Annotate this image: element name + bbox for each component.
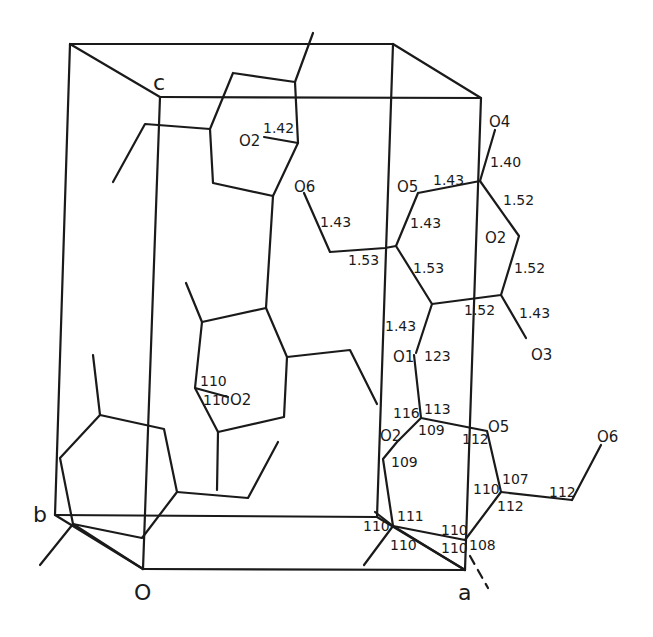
atom-label: O5	[488, 418, 509, 436]
axis-label-origin: O	[134, 580, 151, 605]
bond-angle: 116	[393, 405, 420, 421]
atom-label: O1	[393, 348, 414, 366]
link-down	[266, 196, 273, 308]
bond-angle: 110	[363, 518, 390, 534]
C1-O1-bond	[416, 304, 432, 353]
atom-label: O6	[597, 428, 618, 446]
atom-label: O2	[380, 427, 401, 445]
bond-length: 1.53	[413, 260, 444, 276]
atom-label: O2	[485, 229, 506, 247]
bond-angle: 112	[462, 431, 489, 447]
atom-label: O5	[397, 178, 418, 196]
ring-bonds	[195, 308, 287, 432]
axis-label-b: b	[33, 502, 47, 527]
bond-length: 1.43	[519, 305, 550, 321]
bond-angle: 112	[497, 498, 524, 514]
bond-length: 1.53	[348, 252, 379, 268]
methyl-bond	[186, 283, 202, 322]
cell-edge-top-right-diagonal	[393, 44, 481, 98]
lower-left-ring	[40, 355, 278, 569]
bond-angle: 109	[418, 422, 445, 438]
C6-O6-bond	[572, 445, 601, 500]
side-chain-left	[113, 124, 210, 182]
methyl-bond	[93, 355, 100, 415]
bond-length: 1.40	[490, 154, 521, 170]
bond-length: 1.43	[320, 214, 351, 230]
bond-angle: 109	[391, 454, 418, 470]
bond-angle: 107	[502, 471, 529, 487]
bond-length: 1.43	[433, 172, 464, 188]
bond-angle: 110	[441, 522, 468, 538]
side-chain-right	[177, 442, 278, 498]
bond-down-left	[40, 524, 73, 565]
cell-edge-front-bottom	[143, 569, 465, 570]
cell-edge-back-right	[377, 44, 393, 517]
cell-edge-back-bottom	[55, 515, 377, 517]
atom-label: O2	[230, 391, 251, 409]
bond-angle: 110	[441, 540, 468, 556]
bond-length: 1.52	[464, 302, 495, 318]
bond-length: 1.52	[503, 192, 534, 208]
atom-label: O3	[531, 346, 552, 364]
cell-edge-front-top	[160, 97, 481, 98]
bond-angle: 110	[390, 537, 417, 553]
axis-label-a: a	[458, 580, 471, 605]
axis-label-c: c	[153, 70, 165, 95]
atom-label: O2	[239, 132, 260, 150]
atom-label: O6	[294, 178, 315, 196]
link-down	[217, 432, 218, 490]
upper-left-ring	[113, 33, 313, 308]
bond-length: 1.42	[263, 120, 294, 136]
O2-bond	[264, 137, 298, 143]
methyl-bond-up	[295, 33, 313, 82]
cell-edge-back-left	[55, 44, 70, 515]
bond-length: 1.43	[410, 215, 441, 231]
bond-angle: 110	[200, 373, 227, 389]
crystal-structure-diagram: c b O a O2 O6 O4 O5 O2 O3 O1 O2 O5 O6 O2…	[0, 0, 653, 637]
cell-edge-front-left	[143, 97, 160, 569]
bond-angle: 111	[397, 508, 424, 524]
bond-length: 1.52	[514, 260, 545, 276]
cell-edge-top-left-diagonal	[70, 44, 160, 97]
bond-angle: 110	[473, 481, 500, 497]
side-chain-right	[287, 350, 377, 404]
bond-angle: 123	[424, 348, 451, 364]
bond-length: 1.43	[385, 318, 416, 334]
bond-angle: 113	[424, 401, 451, 417]
bond-angle: 108	[469, 537, 496, 553]
bond-angle: 110	[203, 392, 230, 408]
atom-label: O4	[489, 113, 510, 131]
a-axis-dashed-extension	[470, 556, 488, 588]
cell-edge-front-right	[465, 98, 481, 570]
ring-bonds	[60, 415, 177, 538]
bond-angle: 112	[549, 484, 576, 500]
